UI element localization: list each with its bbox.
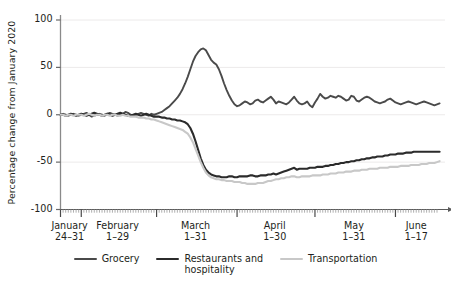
x-axis-month-name: April [264, 220, 286, 231]
legend-label: Grocery [102, 254, 140, 265]
legend-item[interactable]: Grocery [74, 254, 140, 265]
legend-swatch [280, 258, 303, 261]
series-line-transportation [61, 114, 440, 184]
x-axis-group-label: February1–29 [75, 220, 161, 243]
y-tick-label: 0 [19, 108, 53, 119]
y-tick-label: -100 [19, 203, 53, 214]
x-axis-month-name: February [96, 220, 139, 231]
legend-item[interactable]: Transportation [280, 254, 377, 265]
legend-label: Restaurants and hospitality [184, 254, 263, 275]
x-axis-day-range: 1–29 [75, 231, 161, 243]
chart-legend: GroceryRestaurants and hospitalityTransp… [0, 252, 451, 286]
x-axis-group-label: April1–30 [232, 220, 318, 243]
x-axis-group-label: March1–31 [153, 220, 239, 243]
series-line-grocery [61, 48, 440, 116]
legend-item[interactable]: Restaurants and hospitality [156, 254, 263, 275]
y-tick-label: 100 [19, 13, 53, 24]
x-axis-day-range: 1–31 [153, 231, 239, 243]
x-axis-group-label: June1–17 [373, 220, 451, 243]
legend-swatch [156, 258, 179, 261]
x-axis-day-range: 1–30 [232, 231, 318, 243]
plot-area [0, 0, 451, 288]
x-axis-month-name: June [406, 220, 427, 231]
legend-label: Transportation [308, 254, 377, 265]
y-tick-label: -50 [19, 155, 53, 166]
x-axis-day-range: 1–17 [373, 231, 451, 243]
line-chart: Percentage change from January 2020 1005… [0, 0, 451, 288]
legend-swatch [74, 258, 97, 261]
x-axis-month-name: May [344, 220, 364, 231]
y-tick-label: 50 [19, 60, 53, 71]
x-axis-month-name: March [181, 220, 210, 231]
